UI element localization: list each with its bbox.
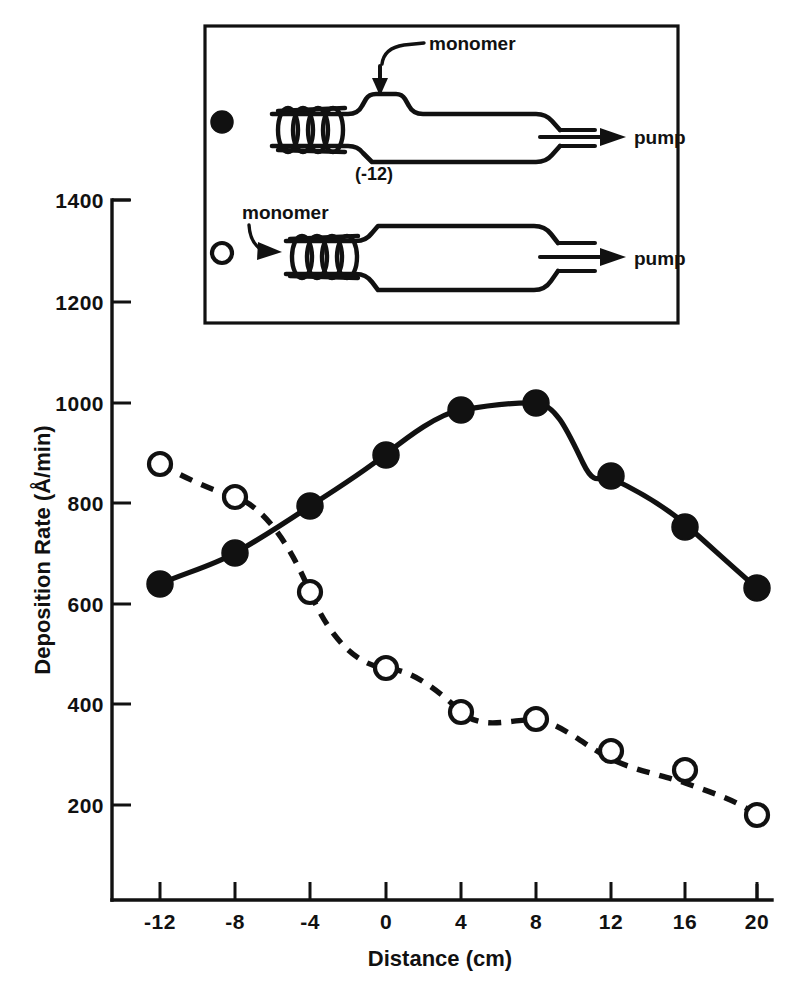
x-ticklabel--4: -4 xyxy=(300,910,320,933)
inset-box-border xyxy=(205,26,678,323)
data-point-filled--12 xyxy=(147,571,173,597)
y-ticklabel-1000: 1000 xyxy=(55,392,104,415)
figure-container: monomer (-12) pump monomer xyxy=(0,0,795,986)
data-point-open-20 xyxy=(746,804,768,826)
inset-top-monomer-label: monomer xyxy=(429,33,516,54)
series-open-circle-line xyxy=(160,464,757,815)
inset-bottom-pump-label: pump xyxy=(634,248,686,269)
y-ticklabel-1200: 1200 xyxy=(55,291,104,314)
data-point-filled--8 xyxy=(222,540,248,566)
x-tick-16: 16 xyxy=(673,882,697,933)
data-point-filled-12 xyxy=(598,463,624,489)
data-point-filled-16 xyxy=(672,514,698,540)
y-axis-title: Deposition Rate (Å/min) xyxy=(29,425,55,674)
y-ticklabel-1400: 1400 xyxy=(55,189,104,212)
data-point-filled--4 xyxy=(297,493,323,519)
legend-filled-circle-icon xyxy=(211,111,233,133)
series-filled-circle-line xyxy=(160,403,757,588)
x-ticklabel-0: 0 xyxy=(380,910,392,933)
legend-open-circle-icon xyxy=(212,243,232,263)
x-ticklabel--8: -8 xyxy=(225,910,245,933)
chart-axes xyxy=(112,200,772,900)
x-ticklabel-20: 20 xyxy=(745,910,769,933)
data-point-open-4 xyxy=(450,701,472,723)
monomer-pointer-top xyxy=(382,43,424,64)
x-ticklabel--12: -12 xyxy=(144,910,176,933)
deposition-rate-chart: monomer (-12) pump monomer xyxy=(0,0,795,986)
inset-top-pump-label: pump xyxy=(634,127,686,148)
x-ticklabel-16: 16 xyxy=(673,910,697,933)
x-tick-4: 4 xyxy=(455,882,467,933)
x-tick--4: -4 xyxy=(300,882,320,933)
data-point-filled-0 xyxy=(373,442,399,468)
data-point-filled-8 xyxy=(523,390,549,416)
y-tick-400: 400 xyxy=(67,693,131,716)
inset-top-diagram: monomer (-12) pump xyxy=(211,33,686,184)
y-ticklabel-800: 800 xyxy=(67,492,104,515)
x-tick-0: 0 xyxy=(380,882,392,933)
reactor-tube-bottom xyxy=(286,226,558,243)
y-tick-200: 200 xyxy=(67,794,131,817)
x-axis-title: Distance (cm) xyxy=(368,946,512,971)
data-point-open-8 xyxy=(525,708,547,730)
x-tick--12: -12 xyxy=(144,882,176,933)
x-tick-12: 12 xyxy=(599,882,623,933)
data-point-open-16 xyxy=(674,759,696,781)
pump-arrow-bottom xyxy=(540,248,626,266)
x-ticklabel-4: 4 xyxy=(455,910,467,933)
inset-top-position-label: (-12) xyxy=(355,164,393,184)
data-point-filled-20 xyxy=(744,575,770,601)
y-ticklabel-600: 600 xyxy=(67,593,104,616)
inset-bottom-monomer-label: monomer xyxy=(242,202,329,223)
data-point-open--4 xyxy=(299,581,321,603)
data-point-open-0 xyxy=(375,657,397,679)
data-point-open--12 xyxy=(149,453,171,475)
data-point-open-12 xyxy=(600,740,622,762)
y-tick-800: 800 xyxy=(67,492,131,515)
x-axis-ticks: -12 -8 -4 0 4 8 12 16 20 xyxy=(144,882,769,933)
x-tick-8: 8 xyxy=(530,882,542,933)
x-tick--8: -8 xyxy=(225,882,245,933)
y-axis-ticks: 1400 1200 1000 800 600 400 200 xyxy=(55,189,131,817)
y-tick-1200: 1200 xyxy=(55,291,131,314)
inset-diagram-group: monomer (-12) pump monomer xyxy=(205,26,686,323)
data-point-open--8 xyxy=(224,486,246,508)
reactor-tube-top xyxy=(272,94,560,130)
x-tick-20: 20 xyxy=(745,882,769,933)
x-ticklabel-8: 8 xyxy=(530,910,542,933)
y-tick-1000: 1000 xyxy=(55,392,131,415)
y-tick-600: 600 xyxy=(67,593,131,616)
y-ticklabel-400: 400 xyxy=(67,693,104,716)
x-ticklabel-12: 12 xyxy=(599,910,623,933)
y-tick-1400: 1400 xyxy=(55,189,131,212)
y-ticklabel-200: 200 xyxy=(67,794,104,817)
data-point-filled-4 xyxy=(448,397,474,423)
series-open-circle-markers xyxy=(149,453,768,826)
inset-bottom-diagram: monomer pump xyxy=(212,202,686,290)
